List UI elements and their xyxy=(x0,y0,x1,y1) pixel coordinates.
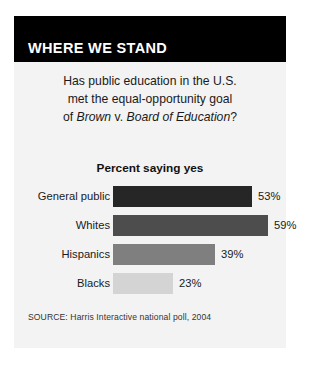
question-line-1: Has public education in the U.S. xyxy=(14,72,286,90)
bar-fill xyxy=(113,273,173,294)
question-line-3-prefix: of xyxy=(63,110,77,124)
chart-subtitle: Percent saying yes xyxy=(14,163,286,175)
bar-fill xyxy=(113,215,268,236)
bar-category-label: General public xyxy=(14,186,110,207)
bar-track: 23% xyxy=(113,273,286,294)
bar-category-label: Hispanics xyxy=(14,244,110,265)
bar-chart: General public53%Whites59%Hispanics39%Bl… xyxy=(14,186,286,302)
bar-value-label: 23% xyxy=(179,273,201,294)
question-text: Has public education in the U.S. met the… xyxy=(14,72,286,126)
question-line-2: met the equal-opportunity goal xyxy=(14,90,286,108)
bar-track: 59% xyxy=(113,215,286,236)
bar-track: 39% xyxy=(113,244,286,265)
page-title: WHERE WE STAND xyxy=(28,41,167,56)
infographic-card: WHERE WE STAND Has public education in t… xyxy=(14,16,286,348)
bar-row: General public53% xyxy=(14,186,286,207)
bar-category-label: Blacks xyxy=(14,273,110,294)
bar-row: Blacks23% xyxy=(14,273,286,294)
bar-row: Whites59% xyxy=(14,215,286,236)
bar-row: Hispanics39% xyxy=(14,244,286,265)
header-band: WHERE WE STAND xyxy=(14,16,286,62)
case-name-board: Board of Education xyxy=(127,110,231,124)
bar-category-label: Whites xyxy=(14,215,110,236)
question-line-3: of Brown v. Board of Education? xyxy=(14,108,286,126)
bar-value-label: 39% xyxy=(221,244,243,265)
bar-fill xyxy=(113,186,252,207)
bar-fill xyxy=(113,244,215,265)
bar-value-label: 59% xyxy=(274,215,296,236)
case-name-brown: Brown xyxy=(77,110,112,124)
source-note: SOURCE: Harris Interactive national poll… xyxy=(28,312,211,322)
question-line-3-mid: v. xyxy=(111,110,126,124)
question-line-3-suffix: ? xyxy=(230,110,237,124)
bar-track: 53% xyxy=(113,186,286,207)
bar-value-label: 53% xyxy=(258,186,280,207)
